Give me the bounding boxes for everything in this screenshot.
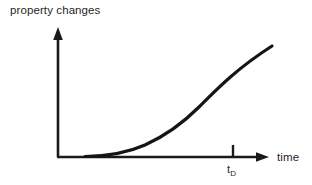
x-axis-arrow-icon [256,152,269,162]
tick-label-subscript: D [230,169,236,178]
y-axis-label: property changes [10,5,100,17]
y-axis-arrow-icon [53,27,63,40]
plot-canvas [0,0,312,185]
data-curve-property-changes [85,46,272,157]
x-axis-label: time [277,152,299,164]
tick-label-td: tD [227,164,236,178]
property-changes-vs-time-figure: property changes time tD [0,0,312,185]
